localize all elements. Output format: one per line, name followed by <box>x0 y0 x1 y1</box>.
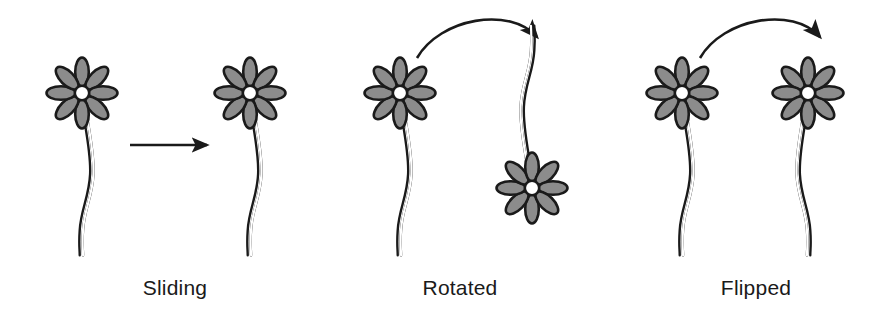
flower-head <box>215 58 286 129</box>
panel-rotated <box>365 19 568 255</box>
flower-rotated-original <box>365 58 436 256</box>
reflection-arrow <box>700 19 820 58</box>
flower-head <box>47 58 118 129</box>
flower-head <box>365 58 436 129</box>
flower-flipped-original <box>647 58 718 256</box>
flower-head <box>497 153 568 224</box>
flower-head <box>647 58 718 129</box>
transformations-illustration: .petals ellipse { fill: #8c8c8c; stroke:… <box>0 0 873 323</box>
rotation-arrow <box>417 19 537 58</box>
flower-sliding-original <box>47 58 118 256</box>
flower-head <box>773 58 844 129</box>
panel-flipped <box>647 19 844 255</box>
panel-sliding <box>47 58 286 256</box>
panel-label-sliding: Sliding <box>143 276 207 300</box>
panel-label-rotated: Rotated <box>423 276 498 300</box>
panel-label-flipped: Flipped <box>721 276 791 300</box>
flower-rotated-image <box>497 26 568 224</box>
flower-flipped-image <box>773 58 844 256</box>
figure-canvas: .petals ellipse { fill: #8c8c8c; stroke:… <box>0 0 873 323</box>
flower-sliding-image <box>215 58 286 256</box>
